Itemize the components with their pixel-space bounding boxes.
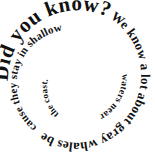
spiral-text-graphic: Did you know? We know a lot about gray w…: [0, 0, 155, 156]
spiral-segment-turn-4: the coast.: [39, 78, 60, 120]
spiral-segment-turn-4-text: the coast.: [39, 78, 60, 120]
spiral-text-canvas: Did you know? We know a lot about gray w…: [0, 0, 155, 156]
